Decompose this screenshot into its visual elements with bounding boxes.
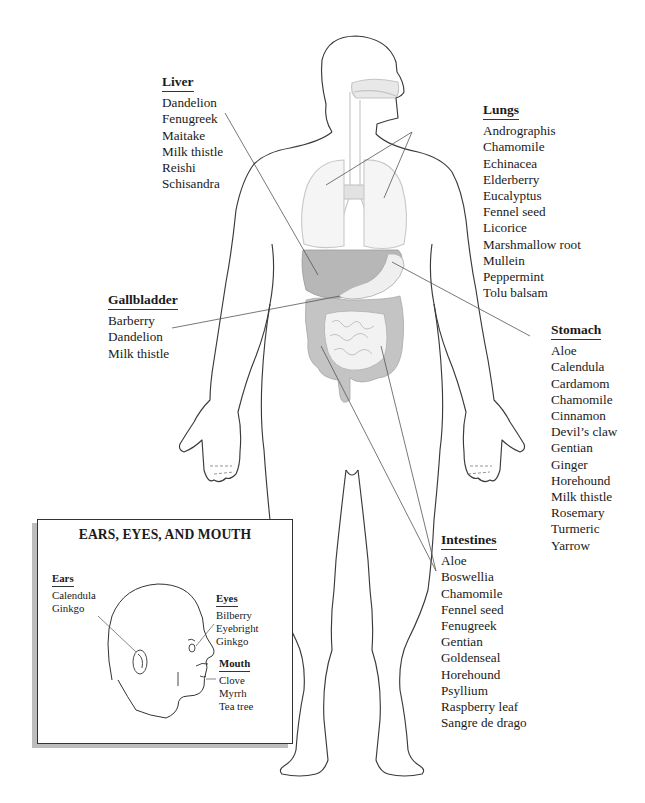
mouth-label-group: Mouth Clove Myrrh Tea tree — [219, 657, 253, 713]
herb-item: Calendula — [52, 589, 96, 602]
eye-drawing — [188, 639, 195, 652]
liver-label-group: Liver Dandelion Fenugreek Maitake Milk t… — [162, 74, 223, 192]
herb-item: Horehound — [441, 667, 527, 683]
ear-drawing — [133, 650, 147, 674]
herb-item: Chamomile — [441, 586, 527, 602]
herb-item: Dandelion — [108, 329, 178, 345]
herb-item: Eyebright — [216, 622, 259, 635]
herb-item: Gentian — [551, 440, 617, 456]
herb-item: Horehound — [551, 473, 617, 489]
gallbladder-label-group: Gallbladder Barberry Dandelion Milk this… — [108, 292, 178, 362]
herb-item: Elderberry — [483, 172, 581, 188]
intestines-drawing — [305, 296, 403, 402]
eyes-title: Eyes — [216, 592, 238, 607]
eyes-leader-line — [196, 624, 214, 646]
eyes-herb-list: Bilberry Eyebright Ginkgo — [216, 609, 259, 648]
herb-item: Clove — [219, 674, 253, 687]
stomach-title: Stomach — [551, 322, 601, 340]
ears-title: Ears — [52, 572, 74, 587]
herb-item: Mullein — [483, 253, 581, 269]
herb-item: Yarrow — [551, 538, 617, 554]
herb-item: Tolu balsam — [483, 285, 581, 301]
herb-item: Milk thistle — [551, 489, 617, 505]
herb-item: Fenugreek — [162, 111, 223, 127]
herb-item: Tea tree — [219, 700, 253, 713]
herb-item: Turmeric — [551, 521, 617, 537]
herb-item: Rosemary — [551, 505, 617, 521]
eyes-label-group: Eyes Bilberry Eyebright Ginkgo — [216, 592, 259, 648]
herb-item: Barberry — [108, 313, 178, 329]
liver-title: Liver — [162, 74, 194, 92]
ears-leader-line — [98, 616, 136, 652]
herb-item: Gentian — [441, 634, 527, 650]
herb-item: Fennel seed — [441, 602, 527, 618]
gallbladder-title: Gallbladder — [108, 292, 178, 310]
herb-item: Ginger — [551, 457, 617, 473]
inset-leader-lines — [98, 616, 216, 679]
lungs-title: Lungs — [483, 102, 519, 120]
herb-item: Eucalyptus — [483, 188, 581, 204]
herb-item: Reishi — [162, 160, 223, 176]
herb-item: Echinacea — [483, 156, 581, 172]
herb-item: Calendula — [551, 359, 617, 375]
stomach-herb-list: Aloe Calendula Cardamom Chamomile Cinnam… — [551, 343, 617, 554]
herb-item: Chamomile — [551, 392, 617, 408]
ears-eyes-mouth-inset: EARS, EYES, AND MOUTH — [37, 519, 293, 744]
herb-item: Devil’s claw — [551, 424, 617, 440]
herb-item: Cinnamon — [551, 408, 617, 424]
herb-item: Dandelion — [162, 95, 223, 111]
herb-item: Milk thistle — [108, 346, 178, 362]
herb-item: Andrographis — [483, 123, 581, 139]
herb-item: Fennel seed — [483, 204, 581, 220]
intestines-title: Intestines — [441, 532, 497, 550]
herb-item: Bilberry — [216, 609, 259, 622]
herb-item: Ginkgo — [216, 635, 259, 648]
lungs-drawing — [302, 160, 407, 249]
herb-item: Aloe — [551, 343, 617, 359]
lungs-label-group: Lungs Andrographis Chamomile Echinacea E… — [483, 102, 581, 301]
herb-item: Psyllium — [441, 683, 527, 699]
herb-item: Cardamom — [551, 376, 617, 392]
herb-item: Chamomile — [483, 139, 581, 155]
herb-item: Fenugreek — [441, 618, 527, 634]
mouth-herb-list: Clove Myrrh Tea tree — [219, 674, 253, 713]
ears-label-group: Ears Calendula Ginkgo — [52, 572, 96, 615]
herb-item: Ginkgo — [52, 602, 96, 615]
herb-anatomy-figure: Liver Dandelion Fenugreek Maitake Milk t… — [0, 0, 645, 803]
herb-item: Schisandra — [162, 176, 223, 192]
liver-leader-line — [225, 113, 318, 275]
herb-item: Raspberry leaf — [441, 699, 527, 715]
herb-item: Sangre de drago — [441, 715, 527, 731]
lungs-herb-list: Andrographis Chamomile Echinacea Elderbe… — [483, 123, 581, 301]
herb-item: Milk thistle — [162, 144, 223, 160]
intestines-herb-list: Aloe Boswellia Chamomile Fennel seed Fen… — [441, 553, 527, 731]
intestines-label-group: Intestines Aloe Boswellia Chamomile Fenn… — [441, 532, 527, 731]
ears-herb-list: Calendula Ginkgo — [52, 589, 96, 615]
intestines-leader-line-small — [381, 346, 436, 571]
liver-herb-list: Dandelion Fenugreek Maitake Milk thistle… — [162, 95, 223, 192]
herb-item: Marshmallow root — [483, 237, 581, 253]
herb-item: Goldenseal — [441, 650, 527, 666]
herb-item: Maitake — [162, 128, 223, 144]
head-outline — [108, 584, 214, 718]
herb-item: Aloe — [441, 553, 527, 569]
mouth-title: Mouth — [219, 657, 250, 672]
stomach-label-group: Stomach Aloe Calendula Cardamom Chamomil… — [551, 322, 617, 554]
herb-item: Peppermint — [483, 269, 581, 285]
gallbladder-herb-list: Barberry Dandelion Milk thistle — [108, 313, 178, 362]
herb-item: Boswellia — [441, 569, 527, 585]
herb-item: Myrrh — [219, 687, 253, 700]
herb-item: Licorice — [483, 220, 581, 236]
